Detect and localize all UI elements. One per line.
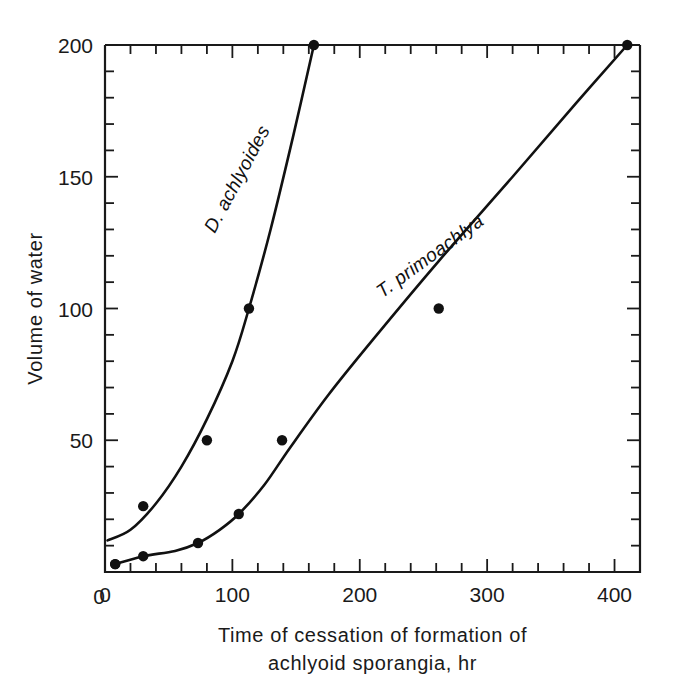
data-point-marker: [202, 435, 212, 445]
figure-canvas: 0100200300400050100150200Volume of water…: [0, 0, 677, 680]
data-point-marker: [309, 40, 319, 50]
series-label: T. primoachlya: [372, 210, 487, 302]
data-point-marker: [110, 559, 120, 569]
y-tick-label: 200: [58, 34, 93, 57]
data-point-marker: [434, 303, 444, 313]
data-point-marker: [193, 538, 203, 548]
x-tick-label: 300: [470, 583, 505, 606]
data-point-marker: [138, 551, 148, 561]
y-tick-label: 0: [93, 585, 105, 608]
data-point-marker: [622, 40, 632, 50]
y-tick-label: 50: [70, 429, 93, 452]
x-tick-label: 200: [342, 583, 377, 606]
x-axis-label-line2: achlyoid sporangia, hr: [268, 652, 477, 674]
x-axis-label-line1: Time of cessation of formation of: [218, 624, 527, 646]
series-curve: [115, 45, 627, 564]
x-tick-label: 100: [215, 583, 250, 606]
scatter-plot: 0100200300400050100150200Volume of water…: [0, 0, 677, 680]
y-axis-label: Volume of water: [24, 232, 46, 384]
series-curve: [108, 45, 314, 540]
y-tick-label: 100: [58, 298, 93, 321]
data-point-marker: [138, 501, 148, 511]
x-tick-label: 400: [597, 583, 632, 606]
data-point-marker: [244, 303, 254, 313]
series-label: D. achlyoides: [200, 122, 274, 236]
data-point-marker: [277, 435, 287, 445]
data-point-marker: [234, 509, 244, 519]
y-tick-label: 150: [58, 166, 93, 189]
